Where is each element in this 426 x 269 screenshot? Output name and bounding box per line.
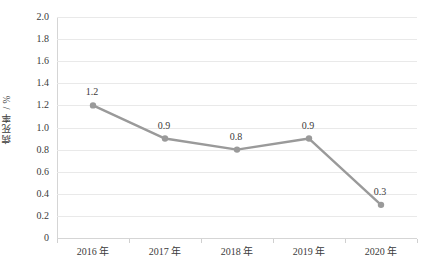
y-axis-tick-label: 1.0 [37, 123, 50, 133]
y-axis-tick-labels: 2.01.81.61.41.21.00.80.60.40.20 [16, 0, 54, 238]
x-axis-tick [345, 239, 346, 243]
data-point-label: 0.9 [302, 121, 315, 131]
y-axis-tick-label: 2.0 [37, 12, 50, 22]
data-point-label: 0.8 [230, 132, 243, 142]
y-axis-tick-label: 1.4 [37, 78, 50, 88]
y-axis-title: 病死率 / % [0, 0, 16, 238]
x-axis-tick [417, 239, 418, 243]
data-point-label: 0.3 [374, 187, 387, 197]
y-axis-title-text: 病死率 / % [3, 95, 13, 144]
y-axis-tick-label: 1.8 [37, 34, 50, 44]
x-axis-tick-label: 2017 年 [149, 246, 182, 258]
x-axis-tick [201, 239, 202, 243]
x-axis-tick-label: 2018 年 [221, 246, 254, 258]
x-axis-tick-labels: 2016 年2017 年2018 年2019 年2020 年 [57, 246, 417, 262]
x-axis-tick [129, 239, 130, 243]
data-point-labels: 1.20.90.80.90.3 [57, 17, 417, 238]
x-axis-tick-label: 2020 年 [365, 246, 398, 258]
x-axis-tick-label: 2019 年 [293, 246, 326, 258]
data-point-label: 1.2 [86, 87, 99, 97]
y-axis-tick-label: 1.6 [37, 56, 50, 66]
y-axis-tick-label: 0.6 [37, 167, 50, 177]
y-axis-tick-label: 0.4 [37, 189, 50, 199]
y-axis-tick-label: 0.8 [37, 145, 50, 155]
line-chart: 病死率 / % 2.01.81.61.41.21.00.80.60.40.20 … [0, 0, 426, 269]
y-axis-tick-label: 0.2 [37, 211, 50, 221]
x-axis-tick [273, 239, 274, 243]
y-axis-tick-label: 0 [44, 233, 49, 243]
x-axis-tick-label: 2016 年 [77, 246, 110, 258]
data-point-label: 0.9 [158, 121, 171, 131]
x-axis-ticks [57, 239, 417, 243]
x-axis-tick [57, 239, 58, 243]
plot-area: 1.20.90.80.90.3 [57, 17, 417, 238]
y-axis-tick-label: 1.2 [37, 100, 50, 110]
